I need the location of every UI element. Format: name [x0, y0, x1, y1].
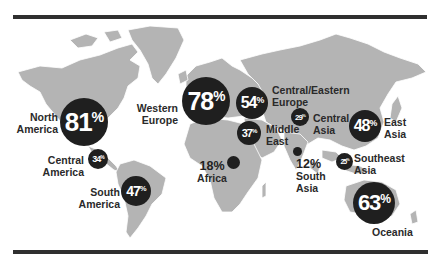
- label-east-asia: East Asia: [384, 116, 406, 140]
- region-value: 54: [241, 94, 257, 112]
- bubble-middle-east: 37%: [237, 121, 261, 145]
- region-value: 63: [358, 190, 380, 216]
- region-value: 34: [92, 154, 100, 164]
- region-value: 12%: [296, 158, 326, 170]
- region-name-line2: Asia: [296, 182, 326, 194]
- label-central-america: Central America: [34, 154, 84, 178]
- percent-sign: %: [92, 109, 104, 125]
- bubble-central-asia: 29%: [291, 108, 309, 126]
- region-value: 81: [65, 107, 92, 138]
- label-central-eastern-europe: Central/Eastern Europe: [272, 84, 350, 108]
- region-value: 47: [126, 183, 140, 199]
- bubble-oceania: 63%: [353, 182, 395, 224]
- bubble-western-europe: 78%: [182, 77, 230, 125]
- region-name-line1: Africa: [194, 172, 230, 184]
- bubble-central-eastern-europe: 54%: [236, 87, 268, 119]
- region-name-line2: East: [266, 135, 299, 147]
- region-name-line2: Asia: [354, 164, 405, 176]
- label-north-america: North America: [14, 111, 58, 135]
- region-value: 29: [295, 113, 302, 122]
- percent-sign: %: [100, 155, 103, 160]
- percent-sign: %: [346, 158, 348, 162]
- region-name-line1: Oceania: [372, 226, 413, 238]
- region-name-line1: Southeast: [354, 152, 405, 164]
- label-africa: 18% Africa: [194, 160, 230, 184]
- percent-sign: %: [213, 89, 224, 104]
- label-central-asia: Central Asia: [313, 112, 349, 136]
- percent-sign: %: [140, 184, 146, 193]
- bubble-southeast-asia: 25%: [336, 153, 353, 170]
- region-value: 18%: [194, 160, 230, 172]
- dot-south-asia: [293, 147, 302, 156]
- region-name-line2: America: [14, 123, 58, 135]
- label-oceania: Oceania: [372, 226, 413, 238]
- region-name-line2: America: [34, 166, 84, 178]
- region-value: 48: [354, 117, 370, 135]
- region-name-line1: South: [72, 186, 120, 198]
- label-western-europe: Western Europe: [130, 102, 178, 126]
- percent-sign: %: [252, 128, 256, 134]
- region-name-line1: North: [14, 111, 58, 123]
- percent-sign: %: [256, 95, 263, 105]
- region-name-line1: Middle: [266, 123, 299, 135]
- percent-sign: %: [302, 113, 305, 118]
- label-south-asia: 12% South Asia: [296, 158, 326, 194]
- region-name-line1: Central: [313, 112, 349, 124]
- percent-sign: %: [369, 118, 376, 128]
- bubble-east-asia: 48%: [349, 110, 381, 142]
- region-name-line2: Asia: [384, 128, 406, 140]
- region-name-line2: Europe: [130, 114, 178, 126]
- region-name-line1: Western: [130, 102, 178, 114]
- region-value: 37: [242, 127, 252, 139]
- region-name-line1: Central: [34, 154, 84, 166]
- bubble-south-america: 47%: [121, 176, 151, 206]
- region-name-line2: Europe: [272, 96, 350, 108]
- label-southeast-asia: Southeast Asia: [354, 152, 405, 176]
- region-name-line2: America: [72, 198, 120, 210]
- region-name-line1: Central/Eastern: [272, 84, 350, 96]
- label-south-america: South America: [72, 186, 120, 210]
- region-name-line2: Asia: [313, 124, 349, 136]
- region-name-line1: East: [384, 116, 406, 128]
- region-name-line1: South: [296, 170, 326, 182]
- label-middle-east: Middle East: [266, 123, 299, 147]
- bubble-north-america: 81%: [60, 98, 108, 146]
- bubble-central-america: 34%: [88, 149, 108, 169]
- region-value: 78: [187, 87, 213, 116]
- percent-sign: %: [380, 192, 390, 206]
